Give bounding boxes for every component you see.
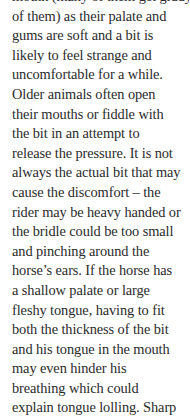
- text-line: rider may be heavy handed or: [0, 203, 168, 223]
- text-line: uncomfortable for a while.: [0, 65, 168, 85]
- text-line: Older animals often open: [0, 85, 168, 105]
- text-line: may even hinder his: [0, 359, 168, 379]
- text-line: and his tongue in the mouth: [0, 340, 168, 360]
- text-line: horse’s ears. If the horse has: [0, 261, 168, 281]
- text-line: the bridle could be too small: [0, 222, 168, 242]
- text-line: explain tongue lolling. Sharp: [0, 398, 168, 418]
- text-line: of them) as their palate and: [0, 7, 168, 27]
- text-line: and pinching around the: [0, 242, 168, 262]
- text-line: cause the discomfort – the: [0, 183, 168, 203]
- text-line: both the thickness of the bit: [0, 320, 168, 340]
- text-line: always the actual bit that may: [0, 163, 168, 183]
- text-line: release the pressure. It is not: [0, 144, 168, 164]
- text-line: a shallow palate or large: [0, 281, 168, 301]
- text-line: the bit in an attempt to: [0, 124, 168, 144]
- text-line: mouth (many of them get giddy: [0, 0, 168, 7]
- text-line: breathing which could: [0, 379, 168, 399]
- document-page: mouth (many of them get giddy of them) a…: [0, 0, 168, 418]
- text-line: likely to feel strange and: [0, 46, 168, 66]
- text-line: their mouths or fiddle with: [0, 105, 168, 125]
- body-paragraph: mouth (many of them get giddy of them) a…: [0, 0, 168, 418]
- text-line: fleshy tongue, having to fit: [0, 301, 168, 321]
- text-line: gums are soft and a bit is: [0, 26, 168, 46]
